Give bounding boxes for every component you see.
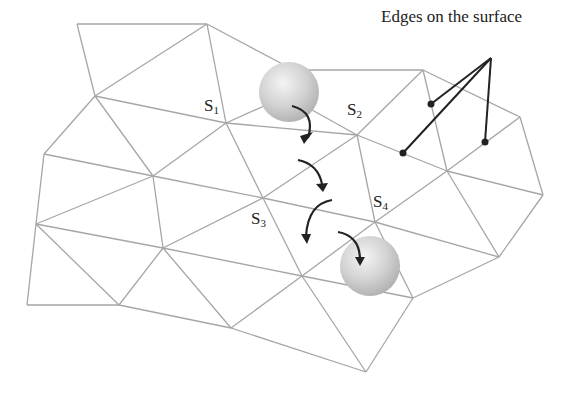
triangle-mesh-diagram [0,0,573,394]
vertex-label-s4: S4 [373,193,388,212]
vertex-label-s3: S3 [251,210,266,229]
start-sphere [259,62,319,122]
annotation-pointer-lines [403,58,491,153]
vertex-label-s1: S1 [204,97,219,116]
edges-annotation-label: Edges on the surface [381,7,522,27]
end-sphere [340,236,400,296]
motion-arrows [292,106,360,260]
vertex-label-s2: S2 [347,101,362,120]
